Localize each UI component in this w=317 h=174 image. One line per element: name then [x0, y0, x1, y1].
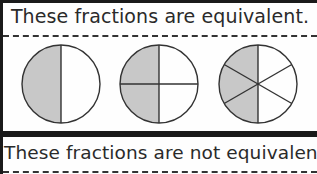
not-equivalent-heading: These fractions are not equivalent. — [4, 142, 317, 163]
dashed-divider-top — [3, 35, 317, 37]
top-border — [0, 0, 317, 3]
equivalent-heading: These fractions are equivalent. — [3, 5, 317, 27]
pie-one-half — [19, 42, 103, 126]
shaded-sector — [22, 45, 61, 123]
shaded-sector — [219, 45, 258, 123]
pie-two-quarters — [117, 42, 201, 126]
dashed-divider-bottom — [3, 171, 317, 173]
pie-three-sixths — [216, 42, 300, 126]
section-divider-band — [0, 131, 317, 137]
fraction-pies — [0, 42, 317, 132]
worksheet-frame: These fractions are equivalent. These fr… — [0, 0, 317, 174]
